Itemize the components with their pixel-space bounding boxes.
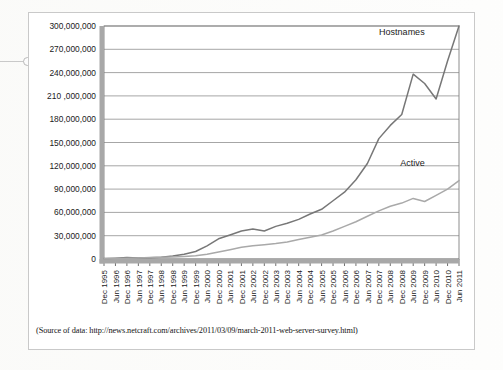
x-axis-tick-label: Jun 1999 <box>180 269 189 302</box>
x-axis-tick-label: Jun 2004 <box>295 269 304 302</box>
y-axis-tick-label: 210 ,000,000 <box>47 91 96 101</box>
x-axis-tick-label: Jun 2006 <box>341 269 350 302</box>
x-axis-tick-label: Dec 1998 <box>169 269 178 304</box>
x-axis-tick-label: Dec 2000 <box>215 269 224 304</box>
x-axis-tick-label: Dec 2005 <box>329 269 338 304</box>
y-axis-tick-label: 30,000,000 <box>54 231 96 241</box>
x-axis-tick-label: Dec 1995 <box>100 269 109 304</box>
y-axis-tick-label: 150,000,000 <box>49 138 96 148</box>
x-axis-tick-label: Jun 2007 <box>364 269 373 302</box>
y-axis-tick-label: 180,000,000 <box>49 114 96 124</box>
x-axis-tick-label: Dec 2009 <box>421 269 430 304</box>
x-axis-tick-label: Jun 2011 <box>455 269 464 302</box>
x-axis-tick-label: Dec 1997 <box>146 269 155 304</box>
x-axis-tick-label: Jun 2000 <box>203 269 212 302</box>
x-axis-tick-label: Jun 2008 <box>386 269 395 302</box>
x-axis-tick-label: Dec 2007 <box>375 269 384 304</box>
y-axis-tick-label: 60,000,000 <box>54 207 96 217</box>
source-caption: (Source of data: http://news.netcraft.co… <box>36 326 468 335</box>
x-axis-tick-label: Jun 1997 <box>135 269 144 302</box>
chart-series-annotations: HostnamesActive <box>379 27 425 167</box>
x-axis-tick-label: Dec 2004 <box>306 269 315 304</box>
x-axis-tick-label: Jun 2001 <box>226 269 235 302</box>
chart-container: 030,000,00060,000,00090,000,000120,000,0… <box>28 12 475 317</box>
x-axis-tick-label: Jun 2010 <box>432 269 441 302</box>
x-axis-tick-label: Dec 2008 <box>398 269 407 304</box>
x-axis-tick-label: Dec 2006 <box>352 269 361 304</box>
x-axis-tick-label: Dec 1996 <box>123 269 132 304</box>
y-axis-tick-label: 90,000,000 <box>54 184 96 194</box>
x-axis-tick-label: Dec 1999 <box>192 269 201 304</box>
x-axis-tick-label: Dec 2003 <box>283 269 292 304</box>
y-axis-tick-label: 270,000,000 <box>49 44 96 54</box>
y-axis-tick-label: 300,000,000 <box>49 21 96 31</box>
x-axis-tick-label: Jun 2002 <box>249 269 258 302</box>
y-axis-tick-label: 240,000,000 <box>49 68 96 78</box>
x-axis-tick-label: Dec 2001 <box>238 269 247 304</box>
series-annotation-active: Active <box>400 158 425 168</box>
x-axis-tick-label: Jun 1996 <box>112 269 121 302</box>
x-axis-tick-label: Dec 2010 <box>444 269 453 304</box>
y-axis-tick-label: 0 <box>91 254 96 264</box>
x-axis-tick-label: Dec 2002 <box>261 269 270 304</box>
x-axis-tick-label: Jun 2003 <box>272 269 281 302</box>
x-axis-tick-label: Jun 1998 <box>157 269 166 302</box>
y-axis-tick-labels: 030,000,00060,000,00090,000,000120,000,0… <box>47 21 96 264</box>
x-axis-tick-label: Jun 2009 <box>409 269 418 302</box>
x-axis-tick-label: Jun 2005 <box>318 269 327 302</box>
y-axis-tick-label: 120,000,000 <box>49 161 96 171</box>
netcraft-web-server-survey-chart: 030,000,00060,000,00090,000,000120,000,0… <box>28 12 475 317</box>
x-axis-tick-labels: Dec 1995Jun 1996Dec 1996Jun 1997Dec 1997… <box>100 269 464 304</box>
series-line-active <box>104 181 459 259</box>
y-axis-spine <box>100 26 460 264</box>
series-annotation-hostnames: Hostnames <box>379 27 425 37</box>
